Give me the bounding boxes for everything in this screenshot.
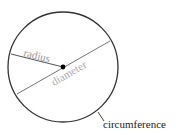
circumference-label: circumference <box>103 118 166 130</box>
diameter-label: diameter <box>49 58 89 88</box>
radius-label: radius <box>23 46 52 64</box>
circle-diagram: radius diameter circumference <box>0 0 176 135</box>
diagram-canvas: radius diameter circumference <box>0 0 176 135</box>
